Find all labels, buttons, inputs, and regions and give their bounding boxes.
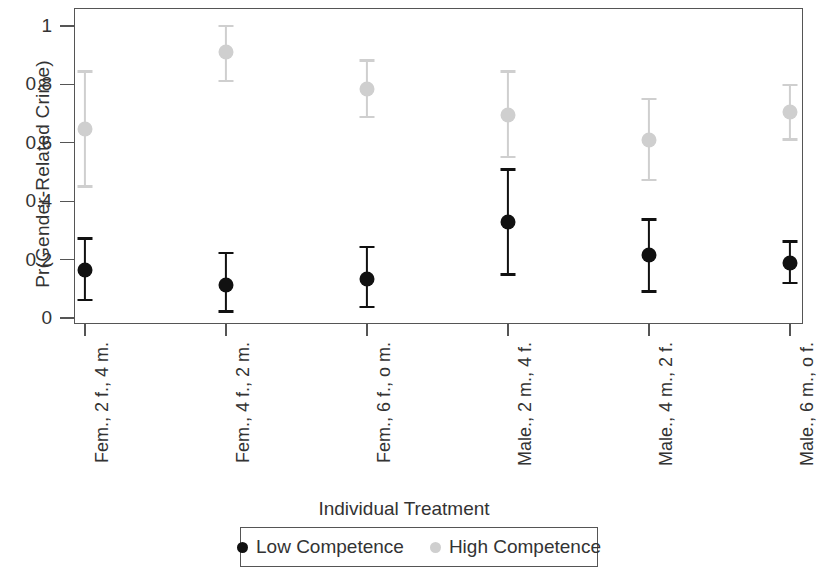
error-bar-cap-lower bbox=[642, 179, 657, 182]
legend-entry: Low Competence bbox=[237, 536, 404, 558]
legend-label: Low Competence bbox=[256, 536, 404, 558]
x-tick-label: Male., 4 m., 2 f. bbox=[656, 342, 677, 466]
error-bar-cap-lower bbox=[360, 116, 375, 119]
y-tick-label: 0.2 bbox=[0, 249, 52, 271]
x-tick-mark bbox=[366, 324, 367, 336]
error-bar-cap-upper bbox=[783, 240, 798, 243]
x-tick-label: Fem., 6 f., o m. bbox=[374, 342, 395, 463]
error-bar-cap-lower bbox=[501, 156, 516, 159]
error-bar-cap-lower bbox=[78, 185, 93, 188]
x-tick-mark bbox=[84, 324, 85, 336]
x-tick-mark bbox=[648, 324, 649, 336]
y-tick-mark bbox=[60, 201, 74, 202]
data-point bbox=[642, 248, 657, 263]
error-bar-cap-upper bbox=[501, 168, 516, 171]
error-bar-cap-upper bbox=[642, 98, 657, 101]
data-point bbox=[219, 278, 234, 293]
error-bar-cap-lower bbox=[360, 306, 375, 309]
error-bar-cap-lower bbox=[783, 138, 798, 141]
data-point bbox=[78, 121, 93, 136]
x-tick-label: Male., 2 m., 4 f. bbox=[515, 342, 536, 466]
data-point bbox=[501, 214, 516, 229]
error-bar-cap-lower bbox=[219, 310, 234, 313]
y-tick-label: 0.6 bbox=[0, 132, 52, 154]
data-point bbox=[501, 108, 516, 123]
y-tick-mark bbox=[60, 259, 74, 260]
y-tick-mark bbox=[60, 25, 74, 26]
error-bar-cap-upper bbox=[78, 70, 93, 73]
y-tick-label: 1 bbox=[0, 15, 52, 37]
error-bar-cap-upper bbox=[501, 70, 516, 73]
data-point bbox=[783, 105, 798, 120]
error-bar-cap-upper bbox=[783, 84, 798, 87]
y-tick-label: 0.8 bbox=[0, 73, 52, 95]
error-bar-cap-upper bbox=[360, 59, 375, 62]
error-bar-cap-upper bbox=[219, 252, 234, 255]
data-point bbox=[78, 262, 93, 277]
data-point bbox=[783, 255, 798, 270]
plot-frame bbox=[74, 8, 803, 324]
x-tick-mark bbox=[225, 324, 226, 336]
data-point bbox=[219, 44, 234, 59]
y-axis-title: Pr(Gender-Related Crime) bbox=[32, 14, 54, 334]
x-axis-title: Individual Treatment bbox=[0, 498, 808, 520]
error-bar-cap-lower bbox=[219, 80, 234, 83]
error-bar-cap-upper bbox=[78, 237, 93, 240]
legend-label: High Competence bbox=[449, 536, 601, 558]
x-tick-label: Fem., 2 f., 4 m. bbox=[92, 342, 113, 463]
y-tick-label: 0 bbox=[0, 307, 52, 329]
chart-legend: Low CompetenceHigh Competence bbox=[240, 527, 598, 567]
error-bar-cap-upper bbox=[360, 246, 375, 249]
y-tick-mark bbox=[60, 317, 74, 318]
error-bar-cap-lower bbox=[783, 282, 798, 285]
y-tick-mark bbox=[60, 84, 74, 85]
legend-dot-icon bbox=[237, 542, 248, 553]
x-tick-label: Male., 6 m., o f. bbox=[797, 342, 818, 466]
data-point bbox=[360, 271, 375, 286]
legend-dot-icon bbox=[430, 542, 441, 553]
x-tick-mark bbox=[507, 324, 508, 336]
legend-entry: High Competence bbox=[430, 536, 601, 558]
error-bar-cap-lower bbox=[501, 273, 516, 276]
data-point bbox=[360, 81, 375, 96]
x-tick-mark bbox=[789, 324, 790, 336]
x-tick-label: Fem., 4 f., 2 m. bbox=[233, 342, 254, 463]
data-point bbox=[642, 132, 657, 147]
y-tick-label: 0.4 bbox=[0, 190, 52, 212]
error-bar-cap-lower bbox=[642, 290, 657, 293]
error-bar-cap-lower bbox=[78, 299, 93, 302]
y-tick-mark bbox=[60, 142, 74, 143]
error-bar-cap-upper bbox=[642, 218, 657, 221]
error-bar-cap-upper bbox=[219, 25, 234, 28]
